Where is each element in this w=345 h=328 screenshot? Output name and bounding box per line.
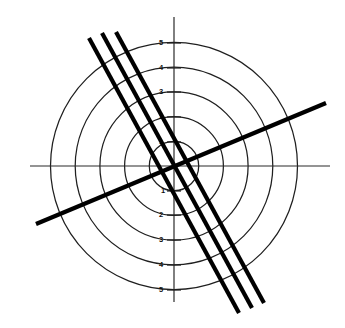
tick-label-y-pos-5: 5 bbox=[159, 38, 163, 47]
tick-label-y-neg-1: 1 bbox=[161, 186, 165, 195]
data-lines-group bbox=[36, 32, 326, 313]
tick-label-y-pos-3: 3 bbox=[159, 87, 163, 96]
data-line-steep-1 bbox=[89, 38, 239, 313]
data-line-steep-3 bbox=[116, 32, 264, 303]
tick-label-y-neg-3: 3 bbox=[159, 235, 163, 244]
polar-grid-chart: 5 4 3 2 1 1 2 3 4 5 bbox=[0, 0, 345, 328]
chart-canvas: 5 4 3 2 1 1 2 3 4 5 bbox=[0, 0, 345, 328]
tick-label-y-neg-2: 2 bbox=[159, 210, 163, 219]
tick-label-y-neg-5: 5 bbox=[159, 285, 163, 294]
